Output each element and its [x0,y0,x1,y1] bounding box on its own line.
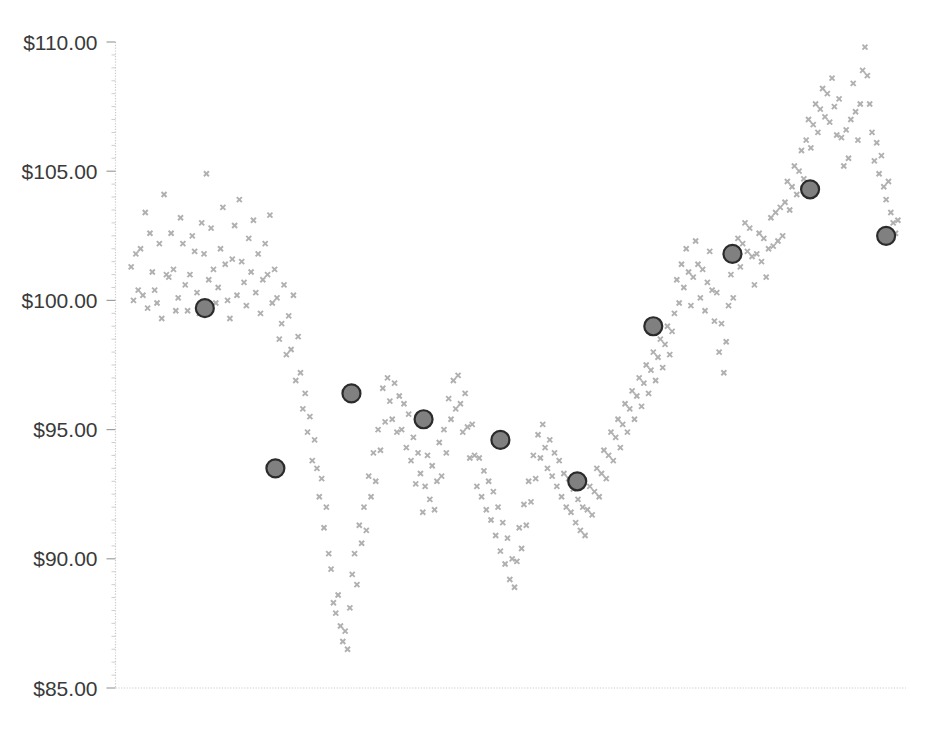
scatter-point [500,520,505,525]
scatter-point [778,205,783,210]
scatter-point [140,293,145,298]
scatter-point [303,391,308,396]
scatter-point [503,561,508,566]
scatter-point [220,205,225,210]
highlight-marker [801,180,819,198]
scatter-point [592,489,597,494]
scatter-point [216,285,221,290]
scatter-point [627,406,632,411]
scatter-point [698,295,703,300]
scatter-point [185,308,190,313]
scatter-point [552,450,557,455]
scatter-point [157,241,162,246]
scatter-point [458,401,463,406]
scatter-point [434,479,439,484]
scatter-point [768,215,773,220]
scatter-point [291,293,296,298]
scatter-point [230,257,235,262]
scatter-point [710,288,715,293]
highlight-marker [568,472,586,490]
scatter-point [870,130,875,135]
scatter-point [735,236,740,241]
scatter-point [583,533,588,538]
scatter-point [155,300,160,305]
scatter-point [705,280,710,285]
scatter-point [263,241,268,246]
scatter-point [187,272,192,277]
scatter-point [514,559,519,564]
scatter-point [486,479,491,484]
scatter-point [420,510,425,515]
scatter-point [279,321,284,326]
scatter-point [206,277,211,282]
scatter-point [190,233,195,238]
scatter-point [822,114,827,119]
scatter-point [794,192,799,197]
scatter-point [369,494,374,499]
scatter-chart: $110.00$105.00$100.00$95.00$90.00$85.00 [0,0,951,737]
scatter-point [714,290,719,295]
scatter-point [646,391,651,396]
scatter-point [166,275,171,280]
scatter-point [891,220,896,225]
scatter-point [667,352,672,357]
scatter-point [423,484,428,489]
scatter-point [227,316,232,321]
scatter-point [846,156,851,161]
scatter-point [526,479,531,484]
scatter-point [136,288,141,293]
scatter-point [234,293,239,298]
scatter-point [576,497,581,502]
scatter-point [286,313,291,318]
scatter-point [183,282,188,287]
scatter-point [644,363,649,368]
scatter-point [655,355,660,360]
scatter-point [848,117,853,122]
scatter-point [350,572,355,577]
scatter-point [804,138,809,143]
scatter-point [792,164,797,169]
scatter-point [223,262,228,267]
scatter-point [147,231,152,236]
scatter-point [298,370,303,375]
scatter-point [211,267,216,272]
scatter-point [180,241,185,246]
scatter-point [620,422,625,427]
scatter-point [498,549,503,554]
scatter-point [131,298,136,303]
scatter-point [839,135,844,140]
scatter-point [813,102,818,107]
scatter-point [531,453,536,458]
scatter-point [373,479,378,484]
scatter-point [674,277,679,282]
scatter-point [759,259,764,264]
scatter-point [380,386,385,391]
scatter-point [484,507,489,512]
scatter-point [820,86,825,91]
scatter-point [427,497,432,502]
scatter-point [493,533,498,538]
scatter-point [557,458,562,463]
scatter-point [411,435,416,440]
scatter-point [858,102,863,107]
scatter-point [611,458,616,463]
scatter-point [460,430,465,435]
scatter-point [608,430,613,435]
scatter-point [300,406,305,411]
scatter-point [413,481,418,486]
scatter-point [651,350,656,355]
y-tick-label: $85.00 [33,677,97,700]
scatter-point [319,476,324,481]
scatter-point [844,127,849,132]
scatter-point [750,254,755,259]
scatter-point [159,316,164,321]
scatter-point [888,210,893,215]
scatter-point [580,505,585,510]
scatter-point [886,179,891,184]
scatter-point [830,76,835,81]
scatter-point [274,295,279,300]
scatter-point [825,91,830,96]
scatter-point [623,401,628,406]
highlight-marker [723,245,741,263]
scatter-point [540,422,545,427]
